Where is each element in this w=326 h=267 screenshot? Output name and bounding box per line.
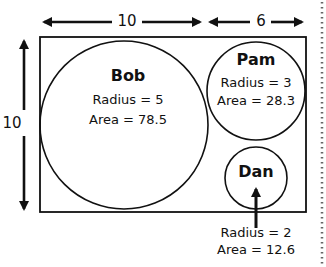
dan-radius: Radius = 2 <box>220 226 291 239</box>
bob-radius: Radius = 5 <box>92 93 163 106</box>
bob-area: Area = 78.5 <box>89 113 167 126</box>
circles-in-rectangle-diagram: 10 6 10 Bob Radius = 5 Area = 78.5 Pam R… <box>0 0 326 267</box>
dan-name: Dan <box>238 164 273 180</box>
top-width-label-6: 6 <box>254 14 268 29</box>
bob-name: Bob <box>111 68 146 84</box>
pam-radius: Radius = 3 <box>220 76 291 89</box>
pam-area: Area = 28.3 <box>217 94 295 107</box>
left-height-label-10: 10 <box>2 113 21 134</box>
dan-area: Area = 12.6 <box>217 243 295 256</box>
top-width-label-10: 10 <box>115 14 138 29</box>
pam-name: Pam <box>237 52 276 68</box>
